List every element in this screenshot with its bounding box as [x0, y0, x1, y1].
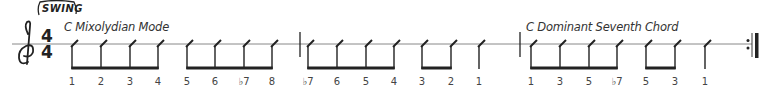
staff-notation: 44 — [0, 0, 767, 92]
scale-degree-label: 1 — [702, 76, 708, 87]
scale-degree-label: 5 — [586, 76, 592, 87]
scale-degree-label: 3 — [557, 76, 563, 87]
beam — [71, 67, 158, 70]
scale-degree-label: 1 — [69, 76, 75, 87]
beam — [186, 67, 272, 70]
beam — [530, 67, 617, 70]
scale-degree-label: 2 — [448, 76, 454, 87]
beam — [421, 67, 451, 70]
scale-degree-label: 5 — [184, 76, 190, 87]
scale-degree-label: 1 — [528, 76, 534, 87]
scale-degree-label: ♭7 — [238, 76, 249, 87]
scale-degree-label: 4 — [391, 76, 397, 87]
scale-degree-label: 5 — [643, 76, 649, 87]
treble-clef-icon — [19, 22, 33, 65]
repeat-end-barline — [747, 33, 759, 58]
time-signature: 44 — [41, 26, 53, 62]
scale-degree-label: 3 — [672, 76, 678, 87]
scale-degree-label: 6 — [212, 76, 218, 87]
scale-degree-label: 3 — [419, 76, 425, 87]
scale-degree-label: 4 — [155, 76, 161, 87]
scale-degree-label: 5 — [363, 76, 369, 87]
scale-degree-label: 8 — [269, 76, 275, 87]
scale-degree-label: 1 — [476, 76, 482, 87]
scale-degree-label: 2 — [98, 76, 104, 87]
scale-degree-label: ♭7 — [611, 76, 622, 87]
scale-degree-label: 3 — [127, 76, 133, 87]
scale-degree-label: 6 — [334, 76, 340, 87]
beam — [645, 67, 675, 70]
scale-degree-label: ♭7 — [302, 76, 313, 87]
beam — [307, 67, 394, 70]
time-signature-bottom: 4 — [41, 42, 53, 62]
